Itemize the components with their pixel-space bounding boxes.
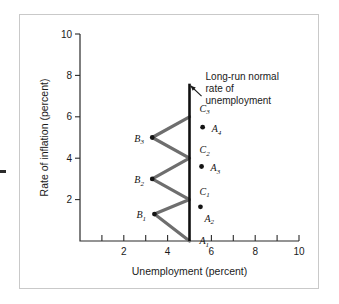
point-label-A3: A3 (210, 162, 221, 176)
adjustment-path-line (152, 117, 189, 241)
y-axis-title: Rate of inflation (percent) (38, 79, 50, 197)
data-point-A2 (198, 204, 203, 209)
point-label-A1: A1 (199, 235, 210, 249)
figure-frame: 246810246810Unemployment (percent)Rate o… (19, 14, 319, 289)
x-axis-title: Unemployment (percent) (132, 265, 248, 277)
y-tick-label-2: 2 (66, 194, 72, 205)
x-tick-label-10: 10 (293, 246, 305, 257)
point-label-B3: B3 (134, 133, 144, 147)
x-tick-label-4: 4 (165, 246, 171, 257)
point-label-B1: B1 (136, 209, 146, 223)
point-label-B2: B2 (134, 174, 144, 188)
x-tick-label-8: 8 (252, 246, 258, 257)
data-point-B1 (152, 212, 157, 217)
page-margin-mark (0, 170, 6, 173)
figure-root: 246810246810Unemployment (percent)Rate o… (0, 0, 339, 304)
data-point-B2 (150, 177, 155, 182)
data-point-A4 (200, 125, 205, 130)
point-label-A4: A4 (211, 123, 222, 137)
y-tick-label-10: 10 (61, 29, 73, 40)
y-tick-label-4: 4 (66, 153, 72, 164)
data-point-A3 (199, 164, 204, 169)
point-label-C1: C1 (200, 186, 210, 200)
callout-line-2: rate of (206, 83, 235, 94)
phillips-curve-chart: 246810246810Unemployment (percent)Rate o… (20, 15, 320, 290)
y-tick-label-8: 8 (66, 70, 72, 81)
callout-line-3: unemployment (206, 95, 272, 106)
callout-line-1: Long-run normal (206, 71, 279, 82)
point-label-C2: C2 (200, 144, 211, 158)
x-tick-label-2: 2 (121, 246, 127, 257)
x-tick-label-6: 6 (209, 246, 215, 257)
y-tick-label-6: 6 (66, 111, 72, 122)
data-point-B3 (150, 135, 155, 140)
point-label-A2: A2 (203, 213, 214, 227)
